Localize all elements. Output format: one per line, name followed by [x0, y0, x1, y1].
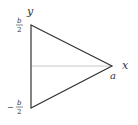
bottom-fraction-denominator: 2 [17, 108, 21, 116]
top-fraction-numerator: b [17, 17, 22, 25]
x-axis-label: x [122, 59, 129, 72]
top-fraction-denominator: 2 [17, 26, 21, 34]
bottom-fraction-numerator: b [17, 99, 22, 107]
y-axis-label: y [26, 5, 34, 18]
triangle-diagram: y b 2 − b 2 x a [0, 0, 138, 125]
apex-label: a [110, 70, 116, 81]
bottom-fraction-sign: − [7, 103, 14, 112]
